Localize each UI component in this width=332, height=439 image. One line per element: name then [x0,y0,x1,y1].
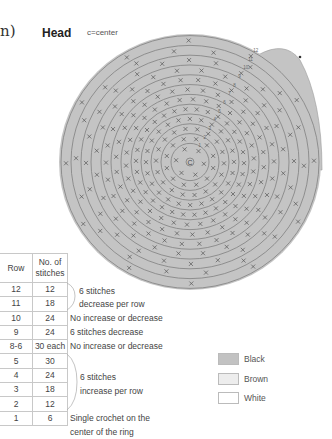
legend-label: White [244,393,266,403]
table-row: 1118 [0,297,68,311]
table-row: 212 [0,397,68,411]
row-cell: 1 [0,411,33,425]
table-row: 16 [0,411,68,425]
note-row1-line1: Single crochet on the [70,412,150,425]
svg-text:12: 12 [253,48,259,53]
note-decrease-line1: 6 stitches [79,285,115,298]
header-row: Row [0,254,33,283]
svg-text:11: 11 [248,57,253,62]
row-cell: 9 [0,325,33,339]
note-increase-line1: 6 stitches [80,371,116,384]
stitch-cell: 12 [33,283,68,297]
start-dot [299,56,302,59]
legend-label: Black [244,354,265,364]
table-row: 8-630 each [0,340,68,354]
table-row: 924 [0,325,68,339]
table-row: 530 [0,354,68,368]
center-label: C [187,159,192,166]
stitch-cell: 18 [33,383,68,397]
bracket-group [66,280,78,430]
stitch-cell: 24 [33,368,68,382]
row-cell: 5 [0,354,33,368]
stitch-cell: 18 [33,297,68,311]
stitch-cell: 30 each [33,340,68,354]
table-row: 424 [0,368,68,382]
note-increase-line2: increase per row [80,385,143,398]
stitch-cell: 12 [33,397,68,411]
header-stitches-line2: stitches [36,268,65,278]
note-row1-line2: center of the ring [70,426,134,439]
header-stitches: No. of stitches [33,254,68,283]
row-cell: 3 [0,383,33,397]
table-row: 1024 [0,311,68,325]
decrease-bracket [67,283,75,310]
note-row9: 6 stitches decrease [70,326,143,339]
stitch-cell: 6 [33,411,68,425]
stitch-cell: 24 [33,311,68,325]
table-row: 318 [0,383,68,397]
row-cell: 8-6 [0,340,33,354]
legend-item-brown: Brown [218,373,268,385]
row-cell: 12 [0,283,33,297]
legend-item-black: Black [218,353,265,365]
legend-item-white: White [218,392,266,404]
swatch-black-icon [218,353,239,365]
note-row10: No increase or decrease [70,312,163,325]
row-stitch-table: Row No. of stitches 1212 1118 1024 924 8… [0,253,68,426]
stitch-cell: 24 [33,325,68,339]
header-stitches-line1: No. of [39,257,62,267]
note-decrease-line2: decrease per row [79,298,145,311]
swatch-white-icon [218,392,239,404]
legend-label: Brown [244,374,268,384]
note-row8-6: No increase or decrease [70,340,163,353]
stitch-cell: 30 [33,354,68,368]
swatch-brown-icon [218,373,239,385]
row-cell: 2 [0,397,33,411]
increase-bracket [67,354,77,410]
row-cell: 11 [0,297,33,311]
svg-text:10: 10 [243,65,249,70]
row-cell: 4 [0,368,33,382]
table-row: 1212 [0,283,68,297]
row-cell: 10 [0,311,33,325]
